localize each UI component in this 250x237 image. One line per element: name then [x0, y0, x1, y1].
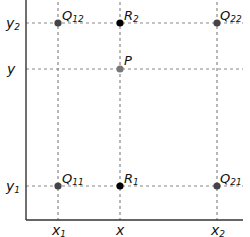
label-q21: Q21 [220, 171, 242, 187]
label-q11: Q11 [62, 171, 84, 187]
bilinear-interpolation-diagram: Q12 R2 Q22 P Q11 R1 Q21 y2 y y1 x1 x x2 [0, 0, 250, 237]
label-p: P [124, 53, 132, 68]
y-tick-y2: y2 [5, 15, 20, 32]
x-tick-x1: x1 [51, 222, 66, 237]
point-r1 [116, 182, 123, 189]
point-r2 [116, 19, 123, 26]
label-q12: Q12 [62, 8, 84, 24]
label-r2: R2 [124, 8, 139, 24]
label-r1: R1 [124, 171, 139, 187]
point-p [116, 65, 123, 72]
points [54, 19, 220, 189]
x-tick-x2: x2 [210, 222, 225, 237]
point-q12 [54, 19, 61, 26]
y-tick-y: y [6, 61, 16, 77]
point-q11 [54, 182, 61, 189]
y-tick-y1: y1 [5, 178, 20, 195]
label-q22: Q22 [220, 8, 242, 24]
x-tick-x: x [115, 222, 125, 237]
